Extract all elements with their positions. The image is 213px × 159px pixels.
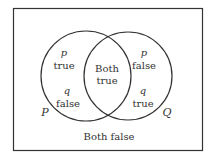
intersection-line2: true [96,75,117,86]
p-only-val-q: false [56,98,80,109]
outside-label: Both false [84,131,135,142]
q-only-val-q: true [132,98,153,109]
set-label-p: P [40,106,49,119]
set-label-q: Q [162,106,171,119]
p-only-val-p: true [53,60,74,71]
q-only-var-p: p [141,47,148,58]
q-only-val-p: false [132,60,156,71]
intersection-line1: Both [95,63,119,74]
p-only-var-q: q [64,85,70,96]
venn-diagram: p true q false Both true p false q true … [0,0,213,159]
q-only-var-q: q [140,85,146,96]
p-only-var-p: p [61,47,68,58]
